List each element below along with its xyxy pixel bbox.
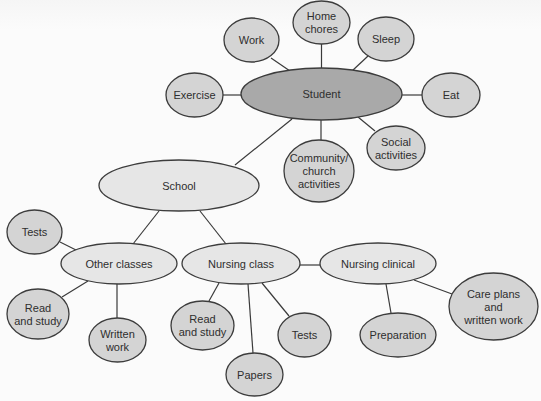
node-other-classes: Other classes bbox=[61, 243, 177, 284]
edge-student-to-sleep bbox=[352, 56, 368, 71]
node-papers: Papers bbox=[226, 353, 283, 396]
node-label: Student bbox=[303, 88, 341, 100]
edge-nursing-clinical-to-preparation bbox=[386, 284, 391, 313]
edge-nursing-class-to-read-study-mid bbox=[209, 283, 219, 301]
node-sleep: Sleep bbox=[358, 17, 414, 61]
edge-student-to-work bbox=[271, 58, 290, 71]
node-read-study-mid: Readand study bbox=[171, 301, 234, 350]
node-label: Nursing class bbox=[208, 258, 275, 270]
concept-map: StudentWorkHomechoresSleepExerciseEatSoc… bbox=[0, 0, 541, 401]
node-exercise: Exercise bbox=[166, 73, 223, 117]
node-label: Read bbox=[25, 302, 51, 314]
edge-nursing-clinical-to-care-plans bbox=[414, 280, 452, 294]
edge-school-to-nursing-class bbox=[200, 211, 226, 244]
edge-student-to-school bbox=[235, 119, 292, 165]
node-nursing-class: Nursing class bbox=[182, 243, 300, 284]
node-label: School bbox=[162, 180, 196, 192]
node-label: Community/ bbox=[290, 152, 350, 164]
node-preparation: Preparation bbox=[360, 313, 436, 357]
node-label: and bbox=[484, 301, 502, 313]
node-tests-mid: Tests bbox=[278, 313, 331, 357]
node-school: School bbox=[99, 160, 259, 211]
node-label: work bbox=[105, 341, 130, 353]
edge-nursing-class-to-tests-mid bbox=[262, 283, 289, 316]
node-label: church bbox=[302, 165, 335, 177]
node-label: Tests bbox=[292, 329, 318, 341]
node-read-study-left: Readand study bbox=[7, 289, 69, 339]
node-label: chores bbox=[305, 23, 339, 35]
node-label: Preparation bbox=[370, 329, 427, 341]
node-label: Social bbox=[381, 136, 411, 148]
node-care-plans: Care plansandwritten work bbox=[449, 273, 538, 340]
nodes-layer: StudentWorkHomechoresSleepExerciseEatSoc… bbox=[7, 1, 538, 396]
node-community-church: Community/churchactivities bbox=[284, 140, 354, 202]
node-label: activities bbox=[375, 149, 418, 161]
node-eat: Eat bbox=[422, 73, 480, 117]
node-label: Papers bbox=[237, 369, 272, 381]
node-label: written work bbox=[463, 314, 523, 326]
node-home-chores: Homechores bbox=[293, 1, 350, 44]
node-label: Tests bbox=[22, 226, 48, 238]
node-student: Student bbox=[241, 68, 402, 120]
node-label: Read bbox=[189, 313, 215, 325]
node-written-work: Writtenwork bbox=[89, 318, 146, 362]
node-nursing-clinical: Nursing clinical bbox=[320, 243, 436, 284]
node-label: Nursing clinical bbox=[341, 258, 415, 270]
node-label: and study bbox=[14, 315, 62, 327]
node-social-activities: Socialactivities bbox=[367, 126, 425, 170]
node-label: and study bbox=[179, 326, 227, 338]
node-label: Eat bbox=[443, 89, 460, 101]
node-tests-left: Tests bbox=[7, 210, 62, 254]
node-label: Work bbox=[239, 34, 265, 46]
node-label: activities bbox=[298, 178, 341, 190]
edge-other-classes-to-tests-left bbox=[60, 242, 76, 250]
node-label: Exercise bbox=[173, 89, 215, 101]
node-label: Care plans bbox=[467, 288, 521, 300]
edge-student-to-social-activities bbox=[358, 117, 375, 131]
edge-school-to-other-classes bbox=[133, 211, 159, 244]
edge-other-classes-to-read-study-left bbox=[62, 281, 88, 297]
node-label: Sleep bbox=[372, 33, 400, 45]
node-work: Work bbox=[224, 18, 279, 62]
node-label: Written bbox=[100, 328, 135, 340]
edge-nursing-class-to-papers bbox=[248, 284, 253, 353]
node-label: Other classes bbox=[85, 258, 153, 270]
node-label: Home bbox=[307, 10, 336, 22]
